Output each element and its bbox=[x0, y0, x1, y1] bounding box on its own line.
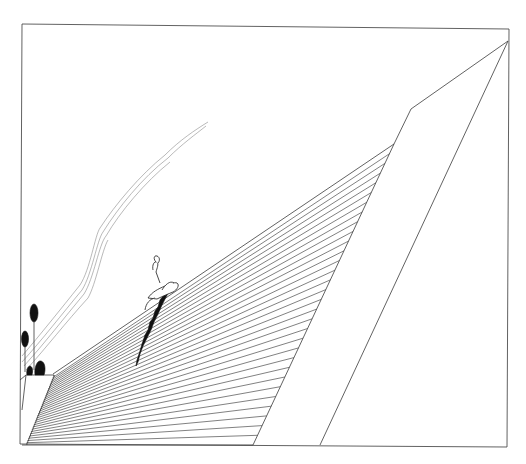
hatched-slope bbox=[53, 144, 394, 445]
hatch-line bbox=[41, 290, 326, 409]
hatch-line bbox=[38, 319, 312, 416]
hatch-line bbox=[51, 173, 380, 382]
sky-streak-line-1 bbox=[22, 122, 208, 356]
tall-tree-crown bbox=[30, 304, 38, 322]
hatch-line bbox=[45, 241, 349, 398]
hatch-line bbox=[46, 231, 353, 395]
ledge-front bbox=[22, 375, 26, 410]
wall-upper-edge bbox=[394, 41, 508, 144]
hatch-line bbox=[50, 193, 372, 387]
figure-arm-raised bbox=[153, 262, 160, 283]
hatch-line bbox=[29, 416, 267, 438]
wall-right-diagonal bbox=[320, 41, 508, 445]
shrub-left bbox=[27, 366, 33, 375]
hatch-line bbox=[48, 212, 363, 391]
ledge bbox=[20, 375, 54, 445]
hatch-line bbox=[31, 397, 276, 434]
hatch-line bbox=[40, 299, 322, 411]
hatch-line bbox=[37, 329, 308, 418]
artwork-canvas bbox=[0, 0, 526, 464]
hatch-line bbox=[49, 202, 367, 388]
slope-right-edge bbox=[253, 144, 394, 445]
hatch-line bbox=[27, 435, 258, 442]
sky-streak-line-2 bbox=[22, 126, 206, 362]
ledge-outline bbox=[20, 375, 54, 380]
sky-streak bbox=[22, 122, 208, 370]
wall-slab bbox=[320, 41, 508, 445]
short-tree-crown bbox=[22, 331, 29, 347]
hatch-line bbox=[33, 367, 289, 427]
hatch-lines bbox=[22, 154, 390, 445]
hatch-line bbox=[28, 426, 262, 441]
sky-streak-line-4 bbox=[26, 240, 108, 370]
hatch-line bbox=[52, 163, 385, 379]
hatch-line bbox=[53, 154, 389, 378]
figure-body bbox=[148, 283, 178, 299]
hatch-line bbox=[43, 261, 339, 403]
shrub-right bbox=[35, 361, 45, 375]
slope-top-edge bbox=[53, 144, 394, 374]
